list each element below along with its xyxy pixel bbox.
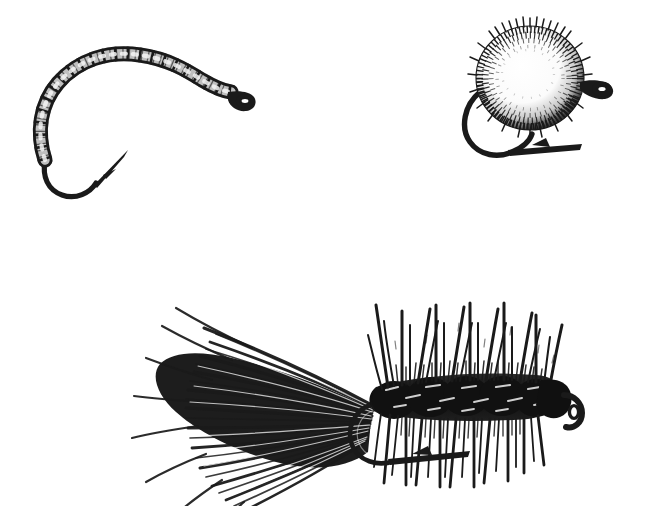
hook-barb-egg	[532, 138, 550, 147]
egg-hook-eye-group	[580, 80, 613, 99]
worm-hook	[44, 150, 128, 197]
worm-body	[40, 54, 231, 160]
figure-woolly-bugger	[140, 235, 590, 506]
hook-point-worm	[94, 150, 128, 188]
hook-bend-worm-inner	[50, 160, 90, 190]
worm-head-and-eye	[228, 91, 256, 111]
egg-yarn-ball	[468, 17, 592, 139]
bugger-head-and-eye	[536, 379, 582, 427]
figure-san-juan-worm	[0, 0, 300, 210]
marabou-tail	[132, 308, 374, 506]
illustration-plate	[0, 0, 650, 506]
worm-segment-ribs	[40, 54, 231, 160]
figure-egg-glo-bug	[430, 0, 650, 200]
